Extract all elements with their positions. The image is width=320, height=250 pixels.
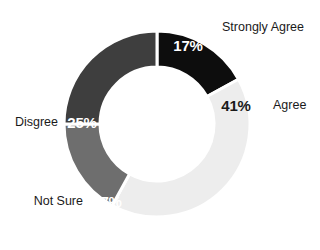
slice-category-label: Agree — [273, 98, 306, 112]
donut-chart-svg: 17%41%17%25% Strongly AgreeAgreeNot Sure… — [0, 0, 320, 250]
slice-category-label: Not Sure — [34, 194, 83, 208]
slice-value-label: 17% — [92, 193, 121, 210]
slice-value-label: 17% — [173, 37, 202, 54]
slice-category-label: Strongly Agree — [222, 20, 304, 34]
slice-category-label: Disgree — [15, 115, 58, 129]
slice-value-label: 41% — [221, 97, 250, 114]
donut-chart: 17%41%17%25% Strongly AgreeAgreeNot Sure… — [0, 0, 320, 250]
donut-slice[interactable] — [64, 31, 157, 124]
slice-value-label: 25% — [67, 114, 96, 131]
